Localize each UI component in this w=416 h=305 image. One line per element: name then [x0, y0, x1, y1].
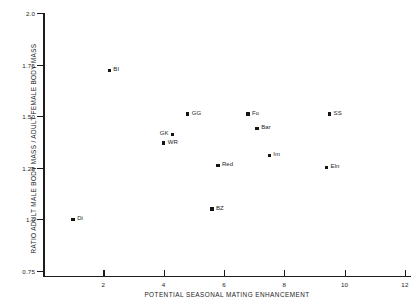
data-point-label: GK [160, 130, 169, 136]
data-point-label: BI [113, 66, 119, 72]
y-axis-title: RATIO ADULT MALE BODY MASS / ADULT FEMAL… [30, 19, 37, 279]
data-point-marker [108, 69, 111, 72]
x-tick-label: 6 [222, 281, 226, 288]
y-tick-mark [37, 271, 44, 272]
data-point-marker [216, 164, 219, 167]
x-tick-mark [284, 270, 285, 277]
data-point-label: Im [273, 151, 280, 157]
data-point-marker [210, 207, 213, 210]
data-point-label: GG [192, 110, 202, 116]
y-tick-label: 2.0 [2, 10, 35, 17]
data-point-label: Eln [331, 163, 340, 169]
data-point-label: Red [222, 161, 233, 167]
scatter-plot-figure: 0.751.01.251.501.752.0 24681012 DiBIWRGK… [0, 0, 416, 305]
data-point-marker [328, 112, 331, 115]
x-tick-mark [164, 270, 165, 277]
data-point-label: Bar [261, 124, 271, 130]
data-point-label: SS [334, 110, 342, 116]
y-tick-mark [37, 116, 44, 117]
x-tick-label: 12 [401, 281, 408, 288]
data-point-marker [325, 166, 328, 169]
x-tick-label: 8 [283, 281, 287, 288]
x-tick-label: 10 [341, 281, 348, 288]
data-point-marker [71, 218, 74, 221]
data-point-marker [171, 133, 174, 136]
data-point-marker [162, 141, 165, 144]
data-point-marker [246, 112, 249, 115]
x-tick-label: 4 [162, 281, 166, 288]
y-tick-mark [37, 13, 44, 14]
data-point-marker [186, 112, 189, 115]
y-tick-mark [37, 168, 44, 169]
x-axis-title: POTENTIAL SEASONAL MATING ENHANCEMENT [43, 291, 411, 298]
data-point-marker [255, 127, 258, 130]
data-point-marker [268, 154, 271, 157]
plot-area: 0.751.01.251.501.752.0 24681012 DiBIWRGK… [0, 0, 416, 305]
x-tick-mark [345, 270, 346, 277]
data-point-label: WR [168, 139, 178, 145]
x-tick-mark [103, 270, 104, 277]
data-point-label: Fo [252, 110, 259, 116]
y-tick-mark [37, 65, 44, 66]
y-axis-line [43, 13, 45, 277]
y-tick-mark [37, 219, 44, 220]
x-tick-label: 2 [102, 281, 106, 288]
x-tick-mark [224, 270, 225, 277]
x-axis-line [43, 276, 411, 277]
x-tick-mark [405, 270, 406, 277]
data-point-label: BZ [216, 205, 224, 211]
data-point-label: Di [77, 215, 83, 221]
